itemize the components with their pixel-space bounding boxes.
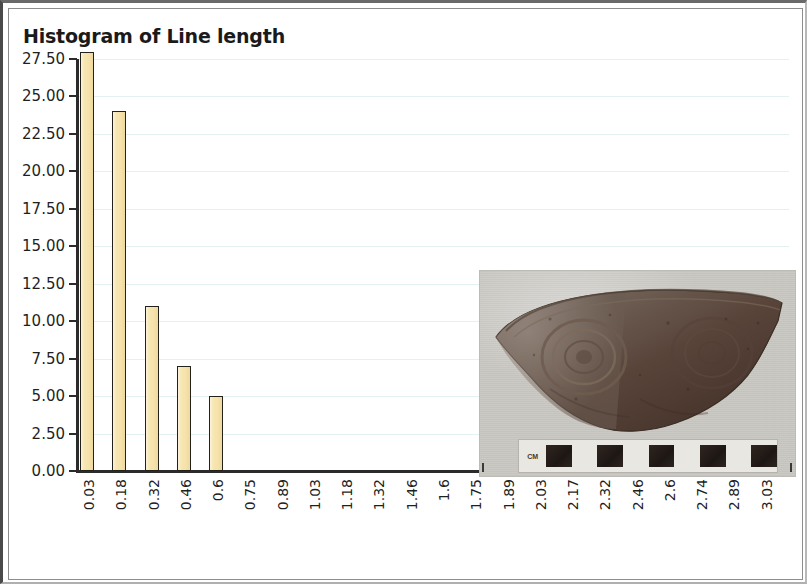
scale-bar-dark-segment	[649, 445, 675, 467]
x-tick-label: 0.6	[210, 479, 226, 501]
x-tick-label: 0.46	[178, 479, 194, 510]
histogram-bar	[80, 52, 94, 471]
x-tick-label: 1.18	[339, 479, 355, 510]
scale-tick-left	[482, 463, 484, 472]
x-tick-label: 0.32	[146, 479, 162, 510]
y-tick-label: 25.00	[22, 87, 65, 105]
y-tick-label: 17.50	[22, 200, 65, 218]
y-tick-mark	[69, 133, 77, 135]
y-axis-labels: 27.5025.0022.5020.0017.5015.0012.5010.00…	[9, 9, 65, 584]
scale-bar-dark-segment	[751, 445, 777, 467]
x-tick-label: 2.17	[565, 479, 581, 510]
y-tick-label: 10.00	[22, 312, 65, 330]
y-tick-mark	[69, 433, 77, 435]
histogram-bar	[145, 306, 159, 471]
y-tick-mark	[69, 283, 77, 285]
x-tick-label: 2.89	[726, 479, 742, 510]
x-tick-label: 2.32	[597, 479, 613, 510]
x-tick-label: 1.03	[307, 479, 323, 510]
y-tick-label: 15.00	[22, 237, 65, 255]
x-tick-label: 0.75	[242, 479, 258, 510]
x-tick-label: 2.03	[533, 479, 549, 510]
y-tick-label: 20.00	[22, 162, 65, 180]
scale-bar-light-segment	[572, 445, 598, 467]
x-tick-label: 1.6	[436, 479, 452, 501]
y-tick-label: 27.50	[22, 50, 65, 68]
x-tick-label: 0.18	[113, 479, 129, 510]
sherd-photograph: CM	[480, 271, 795, 476]
scale-bar-label: CM	[519, 453, 546, 460]
y-tick-mark	[69, 58, 77, 60]
y-tick-mark	[69, 395, 77, 397]
y-tick-label: 7.50	[32, 350, 65, 368]
scale-tick-right	[790, 463, 792, 472]
x-tick-label: 0.89	[275, 479, 291, 510]
x-tick-label: 2.74	[694, 479, 710, 510]
x-axis-labels: 0.030.180.320.460.60.750.891.031.181.321…	[79, 479, 794, 545]
histogram-bar	[209, 396, 223, 471]
y-tick-mark	[69, 358, 77, 360]
y-tick-mark	[69, 208, 77, 210]
y-tick-mark	[69, 470, 77, 472]
histogram-bar	[112, 111, 126, 471]
y-tick-mark	[69, 170, 77, 172]
y-tick-label: 12.50	[22, 275, 65, 293]
y-tick-mark	[69, 95, 77, 97]
scale-bar: CM	[518, 439, 778, 473]
pottery-sherd-image	[490, 279, 786, 439]
scale-bar-light-segment	[726, 445, 752, 467]
scale-bar-light-segment	[674, 445, 700, 467]
y-tick-mark	[69, 245, 77, 247]
x-tick-label: 1.32	[371, 479, 387, 510]
y-tick-label: 2.50	[32, 425, 65, 443]
scale-bar-dark-segment	[700, 445, 726, 467]
x-tick-label: 1.89	[501, 479, 517, 510]
scale-bar-dark-segment	[597, 445, 623, 467]
x-tick-label: 1.46	[404, 479, 420, 510]
y-tick-mark	[69, 320, 77, 322]
y-tick-label: 5.00	[32, 387, 65, 405]
x-tick-label: 1.75	[468, 479, 484, 510]
y-tick-label: 22.50	[22, 125, 65, 143]
scale-bar-dark-segment	[546, 445, 572, 467]
figure-frame: Histogram of Line length 27.5025.0022.50…	[0, 0, 807, 584]
scale-bar-light-segment	[623, 445, 649, 467]
figure-inner-border: Histogram of Line length 27.5025.0022.50…	[8, 8, 803, 580]
y-tick-label: 0.00	[32, 462, 65, 480]
x-tick-label: 0.03	[81, 479, 97, 510]
x-tick-label: 2.46	[630, 479, 646, 510]
x-tick-label: 3.03	[759, 479, 775, 510]
x-tick-label: 2.6	[662, 479, 678, 501]
histogram-bar	[177, 366, 191, 471]
